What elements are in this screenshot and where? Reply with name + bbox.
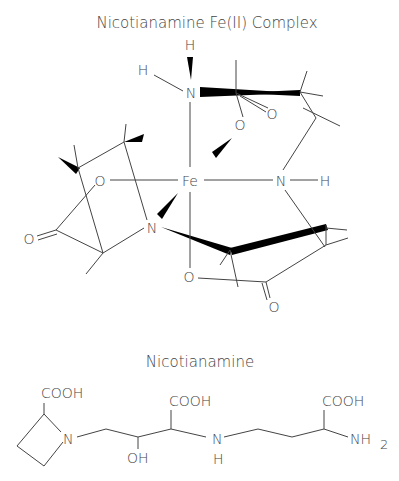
atom-o-carbonyl-top: O [266, 106, 277, 122]
molecule-title: Nicotianamine [146, 353, 254, 371]
group-nh2-subscript: 2 [380, 437, 388, 452]
atom-o-bottom: O [183, 269, 194, 285]
group-cooh-3: COOH [322, 393, 364, 409]
atom-o-carboxyl-top: O [234, 117, 245, 133]
wedge-bond [212, 138, 232, 158]
atom-n-ring: N [63, 431, 73, 447]
wedge-bond [124, 134, 144, 142]
atom-h-right: H [320, 173, 331, 189]
atom-h-top: H [185, 37, 196, 53]
atom-n-right: N [276, 173, 286, 189]
atom-nh-h: H [213, 451, 224, 467]
chemical-structure-diagram: Nicotianamine Fe(II) Complex H H N O O O… [0, 0, 399, 481]
atom-o-left: O [94, 173, 105, 189]
wedge-bond [157, 193, 178, 219]
atom-n-top: N [186, 85, 196, 101]
fe-complex-structure: H H N O O O Fe N H N O O O [23, 37, 348, 315]
complex-title: Nicotianamine Fe(II) Complex [96, 14, 317, 32]
group-nh2: NH [350, 431, 371, 447]
atom-o-carbonyl-left: O [23, 231, 34, 247]
atom-fe: Fe [182, 173, 198, 189]
atom-n-left: N [147, 220, 157, 236]
atom-o-carbonyl-bottom: O [268, 299, 279, 315]
wedge-bond [187, 57, 193, 80]
atom-nh-n: N [212, 431, 222, 447]
nicotianamine-structure: COOH COOH COOH N OH N H NH 2 [17, 385, 388, 467]
wedge-bond [161, 227, 232, 255]
group-cooh-2: COOH [169, 393, 211, 409]
wedge-bond [230, 224, 328, 255]
group-oh: OH [127, 450, 149, 466]
atom-h-left: H [138, 62, 149, 78]
group-cooh-1: COOH [41, 385, 83, 401]
